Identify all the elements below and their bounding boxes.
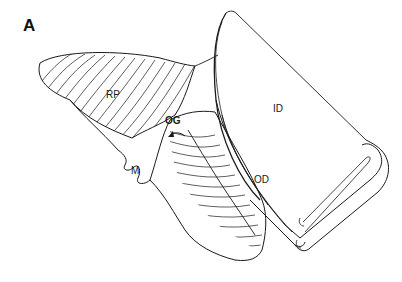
- id-od-structure: [214, 11, 388, 251]
- label-od: OD: [254, 175, 269, 185]
- label-rp: RP: [106, 90, 120, 100]
- label-og: OG: [165, 116, 181, 126]
- diagram-drawing: [0, 0, 402, 282]
- label-id: ID: [273, 104, 283, 114]
- panel-label: A: [23, 17, 35, 34]
- rp-region: [35, 52, 215, 160]
- label-m: M: [131, 166, 139, 176]
